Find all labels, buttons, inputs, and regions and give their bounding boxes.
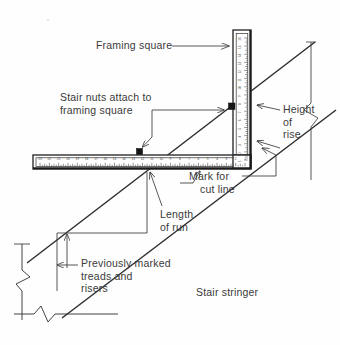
svg-text:23: 23: [38, 157, 42, 161]
label-previously-marked-line-3: risers: [81, 282, 171, 295]
label-stair-stringer-line-1: Stair stringer: [196, 286, 258, 299]
svg-text:20: 20: [66, 157, 70, 161]
svg-text:15: 15: [113, 157, 117, 161]
svg-text:15: 15: [238, 45, 242, 49]
label-mark-for-cut-line-line-1: Mark for: [189, 170, 235, 183]
svg-text:6: 6: [198, 157, 200, 161]
svg-text:5: 5: [207, 157, 209, 161]
svg-text:8: 8: [238, 103, 242, 105]
leader-stair-nuts: [143, 110, 225, 147]
label-previously-marked: Previously marked treads and risers: [81, 257, 171, 295]
svg-text:11: 11: [150, 157, 153, 161]
svg-text:14: 14: [238, 53, 242, 57]
svg-text:7: 7: [238, 111, 242, 113]
label-mark-for-cut-line-line-2: cut line: [189, 183, 235, 196]
svg-text:8: 8: [179, 157, 181, 161]
label-height-of-rise-line-3: rise: [283, 128, 315, 141]
label-length-of-run: Length of run: [160, 208, 193, 233]
label-stair-stringer: Stair stringer: [196, 286, 258, 299]
svg-text:9: 9: [238, 95, 242, 97]
svg-text:3: 3: [238, 144, 242, 146]
svg-text:9: 9: [170, 157, 172, 161]
svg-text:22: 22: [48, 157, 52, 161]
svg-text:1: 1: [238, 160, 242, 162]
svg-text:11: 11: [238, 78, 242, 81]
svg-text:7: 7: [188, 157, 190, 161]
svg-text:14: 14: [122, 157, 126, 161]
svg-text:17: 17: [94, 157, 98, 161]
label-height-of-rise-line-1: Height: [283, 103, 315, 116]
svg-text:6: 6: [238, 119, 242, 121]
label-length-of-run-line-2: of run: [160, 221, 193, 234]
svg-text:13: 13: [238, 62, 242, 66]
svg-text:5: 5: [238, 127, 242, 129]
label-previously-marked-line-2: treads and: [81, 270, 171, 283]
label-previously-marked-line-1: Previously marked: [81, 257, 171, 270]
svg-text:13: 13: [131, 157, 135, 161]
label-framing-square: Framing square: [96, 39, 172, 52]
label-framing-square-line-1: Framing square: [96, 39, 172, 52]
svg-text:21: 21: [57, 157, 61, 161]
svg-text:4: 4: [216, 157, 218, 161]
svg-text:18: 18: [85, 157, 89, 161]
svg-text:12: 12: [238, 70, 242, 74]
label-mark-for-cut-line: Mark for cut line: [189, 170, 235, 195]
svg-text:10: 10: [159, 157, 163, 161]
svg-text:1: 1: [244, 157, 246, 161]
svg-text:12: 12: [141, 157, 145, 161]
label-stair-nuts-line-2: framing square: [60, 104, 152, 117]
svg-text:16: 16: [104, 157, 108, 161]
svg-text:10: 10: [238, 86, 242, 90]
label-height-of-rise-line-2: of: [283, 116, 315, 129]
label-length-of-run-line-1: Length: [160, 208, 193, 221]
svg-text:2: 2: [238, 152, 242, 154]
label-stair-nuts-line-1: Stair nuts attach to: [60, 91, 152, 104]
svg-text:16: 16: [238, 37, 242, 41]
leader-previously-marked: [57, 234, 78, 268]
stair-stringer: [27, 42, 336, 318]
svg-text:4: 4: [238, 136, 242, 138]
label-height-of-rise: Height of rise: [283, 103, 315, 141]
print-speck: [47, 19, 49, 21]
svg-text:2: 2: [235, 157, 237, 161]
diagram-canvas: 2322212019181716151413121110987654321 16…: [0, 0, 340, 345]
label-stair-nuts: Stair nuts attach to framing square: [60, 91, 152, 116]
svg-text:19: 19: [76, 157, 80, 161]
stair-nut-horizontal: [137, 149, 143, 155]
svg-text:3: 3: [225, 157, 227, 161]
stair-nut-vertical: [229, 103, 236, 110]
